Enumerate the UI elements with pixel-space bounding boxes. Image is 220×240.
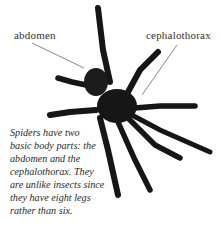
caption-line: cephalothorax. They bbox=[10, 165, 120, 178]
caption-text: Spiders have two basic body parts: the a… bbox=[10, 126, 120, 215]
caption-line: Spiders have two bbox=[10, 126, 120, 139]
caption-line: rather than six. bbox=[10, 204, 120, 215]
caption-line: basic body parts: the bbox=[10, 139, 120, 152]
caption-line: they have eight legs bbox=[10, 191, 120, 204]
cephalothorax-label: cephalothorax bbox=[146, 29, 211, 41]
caption-line: abdomen and the bbox=[10, 152, 120, 165]
caption-line: are unlike insects since bbox=[10, 178, 120, 191]
abdomen-label: abdomen bbox=[14, 29, 56, 41]
abdomen-leader-line bbox=[32, 43, 84, 68]
